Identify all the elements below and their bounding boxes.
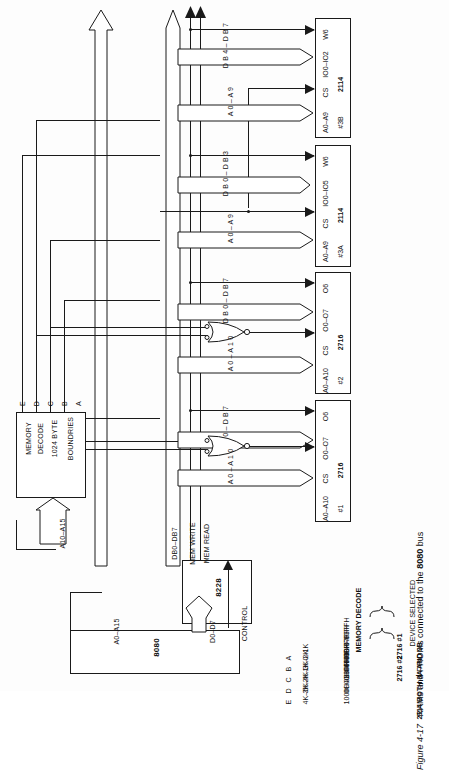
decoder-output-label-a: A [75,396,82,412]
chip-prom1-pin-o6: O6 [322,402,329,432]
ram3b-data-bus [178,47,318,67]
ram3b-w6-junction [189,28,192,31]
figure-caption-post: bus [415,532,425,549]
block-memory-decode[interactable]: MEMORY DECODE 1024 BYTE BOUNDRIES [16,412,86,498]
memory-decode-line4: BOUNDRIES [67,414,74,464]
cpu-control-label: CONTROL [241,602,248,646]
chip-prom2-part: 2716 [337,323,344,363]
decoder-output-label-e: E [19,396,26,412]
chip-ram3b[interactable]: W6 IO0–IO2 CS A0–A9 2114 #3B [315,18,351,138]
ram3a-w6-wire [190,155,314,156]
prom1-o6-wire [190,410,314,411]
decoder-address-input-label: A10–A15 [59,512,66,556]
legend-device-2: 2716 #2 [395,592,404,682]
ram3b-data-bus-label: D B 4 – D B 7 [222,16,229,76]
chip-prom2-pin-data: O0–O7 [322,302,329,340]
figure-caption: Figure 4-17 RAMs and PROMs connected to … [415,470,425,770]
chip-ram3a-ref: #3A [337,232,344,272]
ram3b-cs-arrow [305,83,317,95]
chip-prom1-ref: #1 [337,489,344,529]
address-bus-trunk [88,6,114,566]
ram3a-w6-junction [189,154,192,157]
ram3a-addr-bus [178,230,318,250]
legend-row-addr-e: 1000H–13FFH [342,605,351,705]
cpu-to-address-trunk-v [70,592,71,632]
ram3b-w6-arrow [305,24,317,36]
address-feed-to-decoder-h [16,549,56,550]
prom2-addr-bus [178,355,318,375]
memory-decode-legend: MEMORY DECODE A 0–1K 000H–03FFH B 1K–2K … [268,558,438,686]
decode-c-to-gate2 [50,327,208,328]
mem-read-label: MEM READ [203,520,210,568]
block-8080-label: 8080 [152,627,161,669]
decoder-output-label-c: C [47,396,54,412]
ram3a-data-bus-label: D B 0 – D B 3 [222,144,229,204]
figure-caption-bold: 8080 [415,549,425,569]
control-wire [228,566,229,628]
address-feed-to-decoder [16,520,17,550]
chip-prom2-ref: #2 [337,361,344,401]
control-arrowhead [222,560,234,572]
prom2-o6-wire [190,282,314,283]
prom2-cs-arrow [305,327,317,339]
chip-ram3a-pin-addr: A0–A9 [322,231,329,273]
decode-rail-c [50,240,51,412]
decode-rail-c-seg [50,240,160,241]
ram3b-addr-bus-label: A 0 – A 9 [227,72,234,132]
chip-prom1-part: 2716 [337,451,344,491]
prom2-addr-bus-label: A 0 – A 1 0 [227,324,234,384]
chip-prom2-pin-o6: O6 [322,274,329,304]
figure-number: Figure 4-17 [415,724,425,770]
decode-d-to-gate2 [36,335,208,336]
ram3a-cs-wire [160,211,314,212]
cpu-to-address-trunk [70,592,102,593]
mem-read-arrowhead [194,6,208,22]
chip-ram3a-part: 2114 [337,196,344,236]
prom1-addr-bus [178,468,318,488]
decode-rail-e [22,155,23,412]
decode-rail-b-seg [64,300,160,301]
mem-write-label: MEM WRITE [189,520,196,568]
memory-decode-line1: MEMORY [25,416,32,462]
prom2-o6-junction [189,281,192,284]
system-data-bus-label: DB0–DB7 [171,520,178,568]
chip-ram3b-ref: #3B [337,103,344,143]
memory-decode-line2: DECODE [37,416,44,462]
cpu-data-bus-label: D0–D7 [209,612,216,652]
legend-title: MEMORY DECODE [354,533,363,653]
chip-prom1[interactable]: O6 O0–O7 CS A0–A10 2716 #1 [315,400,351,522]
ram3a-w6-arrow [305,150,317,162]
ram3a-cs-arrow [305,206,317,218]
prom2-data-bus [178,302,318,322]
ram3a-data-bus [178,175,318,195]
decoder-output-label-d: D [33,396,40,412]
chip-ram3b-pin-addr: A0–A9 [322,102,329,144]
chip-prom1-pin-data: O0–O7 [322,430,329,468]
figure-caption-pre: RAMs and PROMs connected to the [415,569,425,717]
decode-rail-e-seg [22,155,160,156]
prom1-o6-junction [189,409,192,412]
cpu-address-bus-label: A0–A15 [113,610,120,654]
chip-ram3a[interactable]: W6 IO0–IO5 CS A0–A9 2114 #3A [315,145,351,267]
prom2-o6-arrow [305,277,317,289]
chip-ram3b-part: 2114 [337,65,344,105]
decode-rail-d-seg [36,120,160,121]
chip-prom2-pin-addr: A0–A10 [322,359,329,403]
ram3a-addr-bus-label: A 0 – A 9 [227,199,234,259]
chip-prom1-pin-addr: A0–A10 [322,487,329,531]
prom1-o6-arrow [305,405,317,417]
memory-decode-line3: 1024 BYTE [51,416,58,462]
decode-rail-a-seg [78,418,160,419]
block-8228-label: 8228 [214,567,223,609]
chip-prom2[interactable]: O6 O0–O7 CS A0–A10 2716 #2 [315,272,351,394]
legend-row-key-e: E [284,605,293,705]
decoder-output-label-b: B [61,396,68,412]
prom1-cs-arrow [305,441,317,453]
ram3b-w6-wire [190,29,314,30]
legend-row-range-e: 4K–5K [301,605,310,705]
prom1-addr-bus-label: A 0 – A 1 0 [227,437,234,497]
ram3a-cs-junction [247,210,250,213]
ram3b-addr-bus [178,103,318,123]
legend-brace-2 [376,620,388,648]
